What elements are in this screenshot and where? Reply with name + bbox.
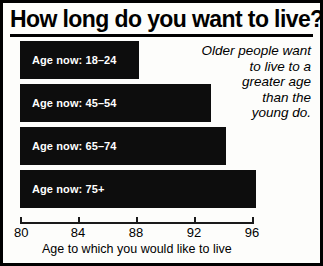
x-axis-tick-label: 80 — [14, 225, 28, 240]
x-axis-tick — [252, 217, 254, 222]
bar-label: Age now: 45–54 — [32, 84, 117, 122]
bar-label: Age now: 75+ — [32, 170, 104, 208]
x-axis-tick-label: 96 — [245, 225, 259, 240]
annotation-line: young do. — [171, 105, 311, 121]
annotation-line: greater age — [171, 74, 311, 90]
bar-label: Age now: 65–74 — [32, 127, 117, 165]
x-axis — [20, 222, 254, 224]
title-divider — [10, 34, 313, 37]
bar-row: Age now: 18–24 — [20, 41, 139, 79]
x-axis-tick — [78, 217, 80, 222]
chart-annotation: Older people want to live to a greater a… — [171, 43, 311, 121]
annotation-line: than the — [171, 90, 311, 106]
x-axis-tick — [136, 217, 138, 222]
x-axis-label: Age to which you would like to live — [42, 242, 232, 256]
x-axis-tick — [194, 217, 196, 222]
x-axis-tick-label: 88 — [129, 225, 143, 240]
x-axis-tick-label: 92 — [187, 225, 201, 240]
bar-label: Age now: 18–24 — [32, 41, 117, 79]
chart-inner: How long do you want to live? Age now: 1… — [8, 6, 317, 261]
x-axis-tick-label: 84 — [71, 225, 85, 240]
annotation-line: to live to a — [171, 59, 311, 75]
chart-figure: How long do you want to live? Age now: 1… — [0, 0, 323, 266]
bar-row: Age now: 65–74 — [20, 127, 226, 165]
annotation-line: Older people want — [171, 43, 311, 59]
x-axis-tick — [20, 217, 22, 222]
bar-row: Age now: 75+ — [20, 170, 256, 208]
page-title: How long do you want to live? — [10, 6, 315, 33]
